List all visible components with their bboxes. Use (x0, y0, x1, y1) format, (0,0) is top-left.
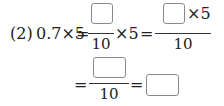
equals-sign: = (130, 77, 143, 93)
problem-label: (2) (10, 26, 33, 42)
numerator-blank-3[interactable] (93, 57, 126, 78)
equals-sign: = (140, 26, 153, 42)
numerator-blank-2[interactable] (163, 3, 185, 24)
numerator-blank-1[interactable] (91, 3, 113, 24)
fraction-bar (155, 33, 211, 34)
denominator: 10 (88, 37, 114, 52)
denominator: 10 (155, 37, 211, 52)
denominator: 10 (89, 87, 129, 102)
equals-sign: = (74, 77, 87, 93)
numerator-times-five: ×5 (187, 6, 211, 22)
fraction-bar (88, 33, 114, 34)
times-five: ×5 (115, 26, 139, 42)
fraction-bar (89, 83, 129, 84)
answer-blank[interactable] (146, 74, 179, 96)
